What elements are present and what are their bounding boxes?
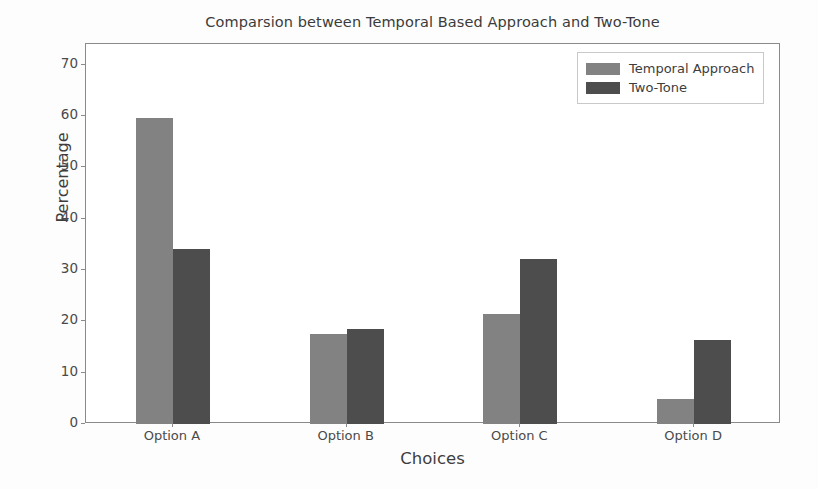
legend-label: Temporal Approach [629, 61, 754, 76]
y-tick-mark [81, 115, 85, 116]
legend-label: Two-Tone [629, 80, 687, 95]
y-tick-label: 20 [44, 313, 78, 327]
y-tick-label: 50 [44, 159, 78, 173]
bar [347, 329, 384, 424]
y-tick-mark [81, 423, 85, 424]
bar [694, 340, 731, 424]
x-tick-label: Option B [276, 428, 416, 443]
x-tick-mark [519, 423, 520, 427]
x-tick-mark [172, 423, 173, 427]
legend-item: Two-Tone [586, 78, 754, 97]
x-tick-label: Option A [102, 428, 242, 443]
bar [310, 334, 347, 424]
legend-item: Temporal Approach [586, 59, 754, 78]
y-tick-mark [81, 372, 85, 373]
bar [173, 249, 210, 424]
y-tick-label: 40 [44, 211, 78, 225]
bar [520, 259, 557, 424]
bar [483, 314, 520, 424]
y-tick-label: 70 [44, 57, 78, 71]
y-tick-mark [81, 269, 85, 270]
y-tick-label: 60 [44, 108, 78, 122]
y-tick-mark [81, 64, 85, 65]
chart-title: Comparsion between Temporal Based Approa… [85, 14, 780, 30]
y-tick-label: 10 [44, 365, 78, 379]
y-tick-label: 0 [44, 416, 78, 430]
x-tick-mark [693, 423, 694, 427]
x-tick-label: Option D [623, 428, 763, 443]
figure-canvas: Comparsion between Temporal Based Approa… [0, 0, 818, 489]
y-tick-label: 30 [44, 262, 78, 276]
legend-swatch [586, 82, 620, 94]
x-axis-label: Choices [85, 449, 780, 468]
x-tick-mark [346, 423, 347, 427]
y-tick-mark [81, 320, 85, 321]
bar [136, 118, 173, 424]
x-tick-label: Option C [449, 428, 589, 443]
bar [657, 399, 694, 424]
y-tick-mark [81, 166, 85, 167]
y-tick-mark [81, 218, 85, 219]
legend-swatch [586, 63, 620, 75]
legend: Temporal ApproachTwo-Tone [577, 52, 764, 104]
